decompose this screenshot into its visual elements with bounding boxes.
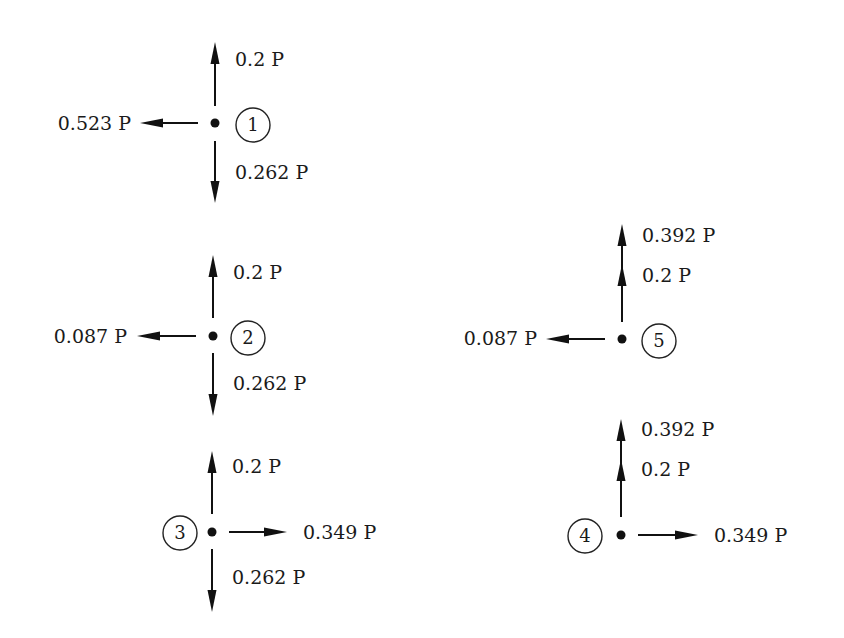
joint-3-force-right-label: 0.349 P xyxy=(303,521,376,543)
joint-2-force-up-arrow xyxy=(209,255,218,318)
joint-1-force-down-label: 0.262 P xyxy=(235,161,308,183)
joint-4-force-up-label-partial: 0.2 P xyxy=(641,458,690,480)
joint-3: 3 0.2 P 0.262 P 0.349 P xyxy=(163,451,376,612)
joint-3-dot xyxy=(208,528,217,537)
joint-4-force-up-arrow xyxy=(617,419,626,517)
joint-1-force-up-label: 0.2 P xyxy=(235,48,284,70)
joint-2-force-left-arrow xyxy=(137,332,196,341)
joint-1-dot xyxy=(211,119,220,128)
joint-1-force-up-arrow xyxy=(211,42,220,106)
joint-3-number: 3 xyxy=(174,522,185,543)
joint-3-force-up-arrow xyxy=(208,451,217,514)
joint-5: 5 0.392 P 0.2 P 0.087 P xyxy=(464,224,716,358)
joint-3-force-down-arrow xyxy=(208,549,217,612)
joint-4: 4 0.392 P 0.2 P 0.349 P xyxy=(568,418,787,553)
joint-5-force-left-arrow xyxy=(546,335,605,344)
joint-2-number: 2 xyxy=(242,327,253,348)
joint-3-force-down-label: 0.262 P xyxy=(232,566,305,588)
joint-4-number: 4 xyxy=(579,525,590,546)
joint-1-force-left-arrow xyxy=(140,119,198,128)
force-diagram-canvas: 1 0.2 P 0.262 P 0.523 P 2 0.2 P xyxy=(0,0,844,638)
joint-3-force-up-label: 0.2 P xyxy=(232,455,281,477)
joint-2-dot xyxy=(209,332,218,341)
joint-2-force-left-label: 0.087 P xyxy=(54,325,127,347)
joint-1-number: 1 xyxy=(247,114,258,135)
joint-4-force-right-arrow xyxy=(638,531,698,540)
joint-4-force-right-label: 0.349 P xyxy=(714,524,787,546)
joint-1-force-down-arrow xyxy=(211,141,220,203)
joint-2-force-up-label: 0.2 P xyxy=(233,261,282,283)
joint-5-force-up-label-partial: 0.2 P xyxy=(642,264,691,286)
joint-5-force-left-label: 0.087 P xyxy=(464,327,537,349)
joint-4-dot xyxy=(617,531,626,540)
joint-1-force-left-label: 0.523 P xyxy=(58,112,131,134)
joint-2-force-down-arrow xyxy=(209,353,218,416)
joint-2-force-down-label: 0.262 P xyxy=(233,372,306,394)
joint-4-force-up-label-total: 0.392 P xyxy=(641,418,714,440)
joint-5-dot xyxy=(618,335,627,344)
joint-1: 1 0.2 P 0.262 P 0.523 P xyxy=(58,42,309,203)
joint-5-force-up-arrow xyxy=(618,224,627,322)
joint-5-number: 5 xyxy=(653,330,664,351)
joint-5-force-up-label-total: 0.392 P xyxy=(642,224,715,246)
joint-2: 2 0.2 P 0.262 P 0.087 P xyxy=(54,255,307,416)
joint-3-force-right-arrow xyxy=(229,528,287,537)
